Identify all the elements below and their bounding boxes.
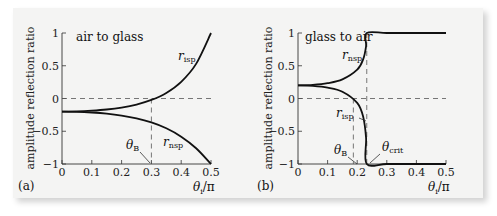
- panel-b-thetacrit-label: θcrit: [382, 140, 404, 155]
- panel-b-chart: 10.50−0.5−100.10.20.30.40.5 glass to air…: [257, 26, 455, 196]
- svg-text:0.1: 0.1: [319, 166, 337, 179]
- svg-text:0: 0: [52, 93, 59, 106]
- svg-text:0.5: 0.5: [278, 60, 296, 73]
- svg-text:0: 0: [288, 93, 295, 106]
- svg-text:0.2: 0.2: [113, 166, 131, 179]
- panel-b-thetaB-pointer: [348, 157, 357, 164]
- svg-text:0.1: 0.1: [83, 166, 101, 179]
- panel-a-chart: 10.50−0.5−100.10.20.30.40.5 air to glass…: [18, 26, 220, 196]
- svg-text:0.5: 0.5: [437, 166, 455, 179]
- panel-a-ylabel: amplitude reflection ratio: [24, 26, 37, 169]
- figure: 10.50−0.5−100.10.20.30.40.5 air to glass…: [0, 0, 497, 216]
- panel-b-ylabel: amplitude reflection ratio: [262, 26, 275, 169]
- panel-a-thetaB-label: θB: [126, 138, 139, 153]
- curve-r-isp: [62, 33, 211, 112]
- curve-r-isp: [298, 85, 446, 166]
- panel-a-xlabel: θi/π: [193, 180, 215, 196]
- svg-text:0.3: 0.3: [143, 166, 161, 179]
- panel-a-title: air to glass: [76, 30, 143, 44]
- panel-a-risp-label: risp: [178, 49, 196, 64]
- panel-b-axes: 10.50−0.5−100.10.20.30.40.5: [268, 27, 454, 179]
- svg-text:−1: −1: [279, 158, 295, 171]
- svg-text:0: 0: [59, 166, 66, 179]
- svg-text:1: 1: [52, 27, 59, 40]
- panel-a-label: (a): [18, 179, 35, 193]
- svg-text:0.4: 0.4: [172, 166, 190, 179]
- panel-b-rnsp-label: rnsp: [342, 48, 362, 63]
- svg-text:0.4: 0.4: [408, 166, 426, 179]
- svg-text:−1: −1: [43, 158, 59, 171]
- panel-b-thetaB-label: θB: [334, 143, 347, 158]
- panel-a-rnsp-label: rnsp: [163, 135, 183, 150]
- panel-a-thetaB-pointer: [140, 152, 150, 163]
- svg-text:0.3: 0.3: [378, 166, 396, 179]
- curve-r-nsp: [62, 112, 211, 164]
- svg-text:0: 0: [295, 166, 302, 179]
- panel-b-xlabel: θi/π: [428, 180, 450, 196]
- svg-text:0.2: 0.2: [348, 166, 366, 179]
- panel-b-title: glass to air: [305, 30, 373, 44]
- svg-text:0.5: 0.5: [202, 166, 220, 179]
- panel-b-thetacrit-pointer: [370, 154, 380, 163]
- panel-b-risp-pointer: [359, 118, 366, 121]
- panel-a-axes: 10.50−0.5−100.10.20.30.40.5: [32, 27, 219, 179]
- svg-text:0.5: 0.5: [42, 60, 60, 73]
- panel-b-curves: [298, 32, 446, 166]
- panel-b-risp-label: risp: [336, 106, 354, 121]
- svg-text:1: 1: [288, 27, 295, 40]
- panel-b-label: (b): [257, 179, 274, 193]
